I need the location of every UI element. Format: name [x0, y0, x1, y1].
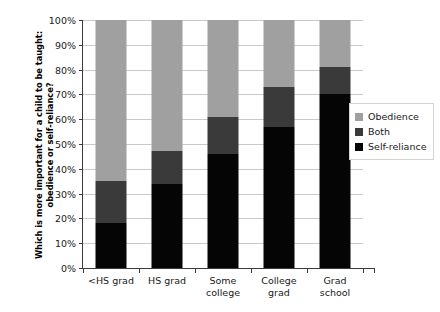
y-axis-tick-label: 100% [49, 15, 76, 26]
stacked-bar[interactable] [320, 20, 351, 268]
x-axis-tick [139, 269, 140, 273]
chart-legend: ObedienceBothSelf-reliance [349, 103, 434, 160]
bar-segment-both[interactable] [320, 67, 351, 94]
stacked-bar[interactable] [208, 20, 239, 268]
bar-slot [139, 20, 195, 268]
y-axis-title-container: Which is more important for a child to b… [0, 0, 40, 290]
bar-segment-self-reliance[interactable] [152, 184, 183, 268]
stacked-bar[interactable] [264, 20, 295, 268]
bar-segment-self-reliance[interactable] [320, 94, 351, 268]
bar-segment-both[interactable] [152, 151, 183, 183]
x-axis-label: Somecollege [195, 275, 251, 298]
bar-slot [195, 20, 251, 268]
legend-swatch-icon [355, 128, 363, 136]
bar-slot [251, 20, 307, 268]
x-axis-end-tick [374, 269, 375, 273]
bar-segment-obedience[interactable] [96, 20, 127, 181]
legend-item[interactable]: Self-reliance [355, 139, 427, 154]
stacked-bar-chart: Which is more important for a child to b… [0, 0, 440, 312]
y-axis-tick-label: 40% [55, 163, 76, 174]
y-axis-tick-label: 80% [55, 64, 76, 75]
bar-slot [83, 20, 139, 268]
x-axis-label: HS grad [139, 275, 195, 287]
legend-label: Self-reliance [368, 141, 427, 152]
bar-segment-obedience[interactable] [152, 20, 183, 151]
x-axis-tick [251, 269, 252, 273]
legend-label: Both [368, 126, 390, 137]
x-axis-tick [195, 269, 196, 273]
x-axis-label: Gradschool [307, 275, 363, 298]
stacked-bar[interactable] [152, 20, 183, 268]
legend-label: Obedience [368, 111, 419, 122]
y-axis-tick-label: 30% [55, 188, 76, 199]
y-axis-tick-label: 60% [55, 114, 76, 125]
x-axis-label-line: Grad [307, 275, 363, 287]
bar-segment-both[interactable] [208, 117, 239, 154]
bar-segment-self-reliance[interactable] [264, 127, 295, 268]
legend-item[interactable]: Both [355, 124, 427, 139]
legend-item[interactable]: Obedience [355, 109, 427, 124]
bar-segment-both[interactable] [264, 87, 295, 127]
x-axis-label-line: grad [251, 287, 307, 299]
y-axis-tick-label: 50% [55, 139, 76, 150]
y-axis-tick-label: 10% [55, 238, 76, 249]
x-axis-tick [363, 269, 364, 273]
stacked-bar[interactable] [96, 20, 127, 268]
x-axis-label-line: Some [195, 275, 251, 287]
legend-swatch-icon [355, 143, 363, 151]
x-axis-label-line: College [251, 275, 307, 287]
y-axis-tick-label: 90% [55, 39, 76, 50]
bar-segment-self-reliance[interactable] [208, 154, 239, 268]
x-axis-label-line: HS grad [139, 275, 195, 287]
bar-segment-self-reliance[interactable] [96, 223, 127, 268]
bar-segment-obedience[interactable] [264, 20, 295, 87]
legend-swatch-icon [355, 113, 363, 121]
x-axis-label-line: college [195, 287, 251, 299]
y-axis-title: Which is more important for a child to b… [34, 14, 56, 276]
x-axis-line [82, 268, 375, 269]
bar-segment-both[interactable] [96, 181, 127, 223]
x-axis-tick [307, 269, 308, 273]
x-axis-label: Collegegrad [251, 275, 307, 298]
x-axis-label: <HS grad [83, 275, 139, 287]
bar-segment-obedience[interactable] [208, 20, 239, 117]
y-axis-tick-label: 20% [55, 213, 76, 224]
x-axis-tick [83, 269, 84, 273]
legend-rows: ObedienceBothSelf-reliance [355, 109, 427, 154]
x-axis-label-line: <HS grad [83, 275, 139, 287]
y-axis-tick-label: 70% [55, 89, 76, 100]
bar-segment-obedience[interactable] [320, 20, 351, 67]
plot-area: 0%10%20%30%40%50%60%70%80%90%100% <HS gr… [83, 20, 363, 268]
x-axis-label-line: school [307, 287, 363, 299]
y-axis-tick-label: 0% [61, 263, 76, 274]
